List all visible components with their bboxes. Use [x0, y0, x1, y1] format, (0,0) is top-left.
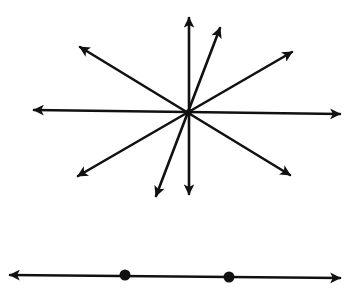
pencil-of-lines [34, 18, 340, 196]
line-horizontal-bottom [10, 275, 340, 278]
line-with-two-points [10, 270, 340, 283]
point-1 [120, 270, 131, 281]
point-2 [224, 272, 235, 283]
intersection-point [186, 109, 192, 115]
diagram-canvas [0, 0, 357, 301]
